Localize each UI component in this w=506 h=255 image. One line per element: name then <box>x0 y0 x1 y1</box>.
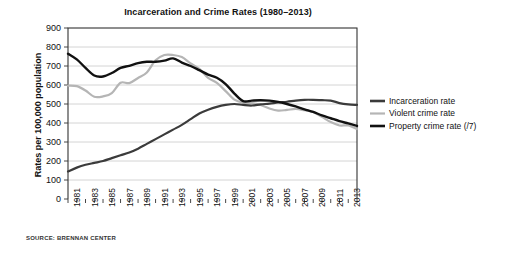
y-axis-tick-label: 0 <box>56 194 61 204</box>
x-axis-tick-label: 2007 <box>300 188 310 207</box>
y-axis-tick-label: 400 <box>46 118 61 128</box>
line-chart-plot: 0100200300400500600700800900 19811983198… <box>0 0 506 255</box>
y-axis-tick-label: 800 <box>46 42 61 52</box>
x-axis-tick-label: 1991 <box>160 188 170 207</box>
x-axis-tick-label: 1995 <box>195 188 205 207</box>
x-axis-ticks-group: 1981198319851987198919911993199519971999… <box>68 188 362 207</box>
legend-item-label: Incarceration rate <box>389 96 455 106</box>
x-axis-tick-label: 1997 <box>212 188 222 207</box>
y-axis-tick-label: 700 <box>46 61 61 71</box>
y-axis-tick-label: 500 <box>46 99 61 109</box>
y-axis-ticks-group: 0100200300400500600700800900 <box>46 23 68 204</box>
chart-legend: Incarceration rateViolent crime rateProp… <box>370 96 477 131</box>
x-axis-tick-label: 1981 <box>72 188 82 207</box>
source-note: SOURCE: BRENNAN CENTER <box>26 235 116 241</box>
y-axis-tick-label: 200 <box>46 156 61 166</box>
x-axis-tick-label: 2005 <box>282 188 292 207</box>
legend-item-label: Property crime rate (/7) <box>389 121 477 131</box>
y-axis-tick-label: 300 <box>46 137 61 147</box>
x-axis-tick-label: 2003 <box>265 188 275 207</box>
x-axis-tick-label: 1999 <box>230 188 240 207</box>
x-axis-tick-label: 2009 <box>317 188 327 207</box>
x-axis-tick-label: 1989 <box>142 188 152 207</box>
axes-group <box>68 28 357 199</box>
axis-frame <box>68 28 357 199</box>
y-axis-tick-label: 100 <box>46 175 61 185</box>
y-axis-tick-label: 600 <box>46 80 61 90</box>
x-axis-tick-label: 2011 <box>335 188 345 207</box>
x-axis-tick-label: 2001 <box>247 188 257 207</box>
chart-figure: Incarceration and Crime Rates (1980–2013… <box>0 0 506 255</box>
x-axis-tick-label: 1983 <box>90 188 100 207</box>
legend-item-label: Violent crime rate <box>389 108 455 118</box>
x-axis-tick-label: 1987 <box>125 188 135 207</box>
x-axis-tick-label: 1985 <box>107 188 117 207</box>
data-series-group <box>68 54 357 172</box>
x-axis-tick-label: 1993 <box>177 188 187 207</box>
series-line-property-crime-rate-7 <box>68 54 357 126</box>
y-axis-tick-label: 900 <box>46 23 61 33</box>
